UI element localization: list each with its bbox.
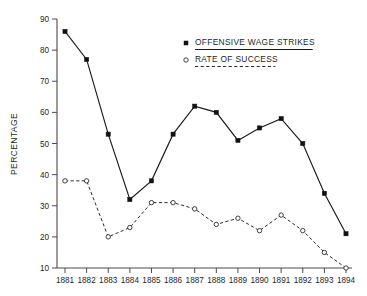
- data-point-marker: [236, 216, 240, 220]
- data-point-marker: [149, 200, 153, 204]
- x-tick-label: 1888: [207, 276, 226, 285]
- x-tick-label: 1882: [78, 276, 97, 285]
- x-tick-label: 1890: [250, 276, 269, 285]
- data-point-marker: [257, 228, 261, 232]
- data-point-marker: [344, 232, 348, 236]
- y-tick-label: 80: [40, 46, 50, 55]
- y-tick-label: 50: [40, 140, 50, 149]
- data-point-marker: [149, 179, 153, 183]
- x-tick-label: 1894: [337, 276, 356, 285]
- legend-label-1: OFFENSIVE WAGE STRIKES: [195, 37, 315, 47]
- x-tick-label: 1883: [99, 276, 118, 285]
- x-tick-label: 1884: [121, 276, 140, 285]
- x-tick-label: 1881: [56, 276, 75, 285]
- chart-legend: OFFENSIVE WAGE STRIKESRATE OF SUCCESS: [184, 37, 315, 66]
- data-point-marker: [171, 200, 175, 204]
- x-tick-label: 1893: [315, 276, 334, 285]
- data-point-marker: [193, 104, 197, 108]
- data-point-marker: [301, 228, 305, 232]
- legend-marker-circle: [184, 58, 188, 62]
- data-point-marker: [322, 250, 326, 254]
- data-point-marker: [214, 222, 218, 226]
- y-tick-label: 70: [40, 77, 50, 86]
- y-tick-label: 20: [40, 233, 50, 242]
- x-tick-label: 1886: [164, 276, 183, 285]
- chart-container: 102030405060708090 188118821883188418851…: [0, 0, 367, 296]
- series-line-2: [65, 181, 346, 268]
- y-axis-ticks: 102030405060708090: [40, 15, 57, 273]
- legend-label-2: RATE OF SUCCESS: [195, 54, 278, 64]
- data-point-marker: [128, 225, 132, 229]
- y-tick-label: 30: [40, 202, 50, 211]
- data-point-marker: [84, 179, 88, 183]
- y-axis-title: PERCENTAGE: [9, 113, 19, 175]
- y-tick-label: 90: [40, 15, 50, 24]
- data-point-marker: [301, 141, 305, 145]
- data-point-marker: [257, 126, 261, 130]
- data-point-marker: [322, 191, 326, 195]
- data-point-marker: [214, 110, 218, 114]
- x-tick-label: 1889: [229, 276, 248, 285]
- data-point-marker: [279, 117, 283, 121]
- data-series: [63, 29, 348, 270]
- data-point-marker: [106, 132, 110, 136]
- x-tick-label: 1892: [294, 276, 313, 285]
- y-tick-label: 10: [40, 264, 50, 273]
- data-point-marker: [106, 235, 110, 239]
- data-point-marker: [171, 132, 175, 136]
- data-point-marker: [279, 213, 283, 217]
- x-tick-label: 1887: [186, 276, 205, 285]
- data-point-marker: [192, 207, 196, 211]
- legend-marker-square: [184, 41, 188, 45]
- line-chart: 102030405060708090 188118821883188418851…: [0, 0, 367, 296]
- x-tick-label: 1891: [272, 276, 291, 285]
- x-axis-ticks: 1881188218831884188518861887188818891890…: [56, 268, 356, 285]
- data-point-marker: [128, 197, 132, 201]
- data-point-marker: [63, 179, 67, 183]
- data-point-marker: [344, 266, 348, 270]
- x-tick-label: 1885: [142, 276, 161, 285]
- y-tick-label: 60: [40, 108, 50, 117]
- data-point-marker: [63, 29, 67, 33]
- y-tick-label: 40: [40, 171, 50, 180]
- data-point-marker: [236, 138, 240, 142]
- data-point-marker: [85, 57, 89, 61]
